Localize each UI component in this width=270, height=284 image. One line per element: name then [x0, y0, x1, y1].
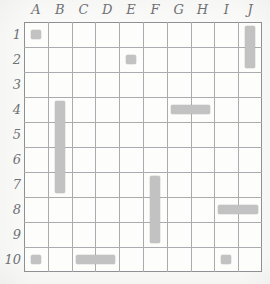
grid-cell-i5[interactable] — [214, 122, 238, 147]
ship-e2[interactable] — [126, 55, 136, 64]
grid-cell-d4[interactable] — [95, 97, 119, 122]
grid-cell-h1[interactable] — [191, 22, 215, 47]
grid-cell-a7[interactable] — [24, 172, 48, 197]
grid-cell-e9[interactable] — [119, 222, 143, 247]
grid-cell-b10[interactable] — [48, 247, 72, 272]
row-header-4: 4 — [0, 97, 21, 122]
grid-cell-h6[interactable] — [191, 147, 215, 172]
grid-cell-e1[interactable] — [119, 22, 143, 47]
grid-cell-g9[interactable] — [167, 222, 191, 247]
grid-cell-d6[interactable] — [95, 147, 119, 172]
ship-a1[interactable] — [31, 30, 41, 39]
grid-cell-h8[interactable] — [191, 197, 215, 222]
grid-cell-f4[interactable] — [143, 97, 167, 122]
grid-cell-h2[interactable] — [191, 47, 215, 72]
row-header-3: 3 — [0, 72, 21, 97]
grid-cell-b1[interactable] — [48, 22, 72, 47]
column-header-d: D — [95, 2, 119, 18]
grid-cell-b9[interactable] — [48, 222, 72, 247]
grid-cell-e4[interactable] — [119, 97, 143, 122]
grid-cell-c5[interactable] — [72, 122, 96, 147]
ship-i10[interactable] — [221, 255, 231, 264]
grid-cell-f2[interactable] — [143, 47, 167, 72]
grid-cell-h9[interactable] — [191, 222, 215, 247]
column-header-b: B — [48, 2, 72, 18]
grid-cell-a2[interactable] — [24, 47, 48, 72]
row-header-8: 8 — [0, 197, 21, 222]
ship-g4-h4[interactable] — [171, 105, 211, 114]
grid-cell-i3[interactable] — [214, 72, 238, 97]
grid-cell-a6[interactable] — [24, 147, 48, 172]
ship-b4-b7[interactable] — [55, 101, 65, 193]
grid-cell-a3[interactable] — [24, 72, 48, 97]
column-header-g: G — [167, 2, 191, 18]
grid-cell-g2[interactable] — [167, 47, 191, 72]
ship-j1-j2[interactable] — [245, 26, 255, 68]
grid-cell-g10[interactable] — [167, 247, 191, 272]
grid-cell-j9[interactable] — [238, 222, 262, 247]
grid-cell-g7[interactable] — [167, 172, 191, 197]
ship-f7-f9[interactable] — [150, 176, 160, 243]
ship-i8-j8[interactable] — [218, 205, 258, 214]
grid-cell-j3[interactable] — [238, 72, 262, 97]
grid-cell-g8[interactable] — [167, 197, 191, 222]
grid-cell-i1[interactable] — [214, 22, 238, 47]
grid-cell-j4[interactable] — [238, 97, 262, 122]
grid-cell-h5[interactable] — [191, 122, 215, 147]
grid-cell-i2[interactable] — [214, 47, 238, 72]
grid-cell-i4[interactable] — [214, 97, 238, 122]
grid-cell-g6[interactable] — [167, 147, 191, 172]
grid-cell-i7[interactable] — [214, 172, 238, 197]
grid-cell-c1[interactable] — [72, 22, 96, 47]
grid-cell-c8[interactable] — [72, 197, 96, 222]
ship-c10-d10[interactable] — [76, 255, 116, 264]
grid-cell-h3[interactable] — [191, 72, 215, 97]
grid-cell-d8[interactable] — [95, 197, 119, 222]
grid-cell-e5[interactable] — [119, 122, 143, 147]
grid-cell-i6[interactable] — [214, 147, 238, 172]
grid-cell-j10[interactable] — [238, 247, 262, 272]
grid-cell-b2[interactable] — [48, 47, 72, 72]
grid-cell-e8[interactable] — [119, 197, 143, 222]
grid-cell-d1[interactable] — [95, 22, 119, 47]
grid-cell-g3[interactable] — [167, 72, 191, 97]
grid-cell-c4[interactable] — [72, 97, 96, 122]
grid-cell-d9[interactable] — [95, 222, 119, 247]
grid-cell-d5[interactable] — [95, 122, 119, 147]
grid-cell-e3[interactable] — [119, 72, 143, 97]
grid-cell-d3[interactable] — [95, 72, 119, 97]
grid-cell-e10[interactable] — [119, 247, 143, 272]
grid-cell-b3[interactable] — [48, 72, 72, 97]
grid-cell-e6[interactable] — [119, 147, 143, 172]
ship-a10[interactable] — [31, 255, 41, 264]
grid-cell-f3[interactable] — [143, 72, 167, 97]
grid-cell-d2[interactable] — [95, 47, 119, 72]
grid-cell-c9[interactable] — [72, 222, 96, 247]
grid-cell-j5[interactable] — [238, 122, 262, 147]
grid-cell-a9[interactable] — [24, 222, 48, 247]
grid-cell-c3[interactable] — [72, 72, 96, 97]
grid-cell-h7[interactable] — [191, 172, 215, 197]
grid-cell-c2[interactable] — [72, 47, 96, 72]
grid-cell-g5[interactable] — [167, 122, 191, 147]
battleship-board[interactable] — [24, 22, 262, 272]
grid-cell-j6[interactable] — [238, 147, 262, 172]
grid-cell-i9[interactable] — [214, 222, 238, 247]
grid-cell-a5[interactable] — [24, 122, 48, 147]
grid-cell-c6[interactable] — [72, 147, 96, 172]
grid-cell-f6[interactable] — [143, 147, 167, 172]
grid-cell-a8[interactable] — [24, 197, 48, 222]
column-header-e: E — [119, 2, 143, 18]
grid-cell-j7[interactable] — [238, 172, 262, 197]
grid-cell-c7[interactable] — [72, 172, 96, 197]
grid-cell-f1[interactable] — [143, 22, 167, 47]
grid-cell-g1[interactable] — [167, 22, 191, 47]
grid-cell-f5[interactable] — [143, 122, 167, 147]
column-header-c: C — [72, 2, 96, 18]
grid-cell-b8[interactable] — [48, 197, 72, 222]
grid-cell-a4[interactable] — [24, 97, 48, 122]
grid-cell-f10[interactable] — [143, 247, 167, 272]
grid-cell-e7[interactable] — [119, 172, 143, 197]
grid-cell-h10[interactable] — [191, 247, 215, 272]
grid-cell-d7[interactable] — [95, 172, 119, 197]
